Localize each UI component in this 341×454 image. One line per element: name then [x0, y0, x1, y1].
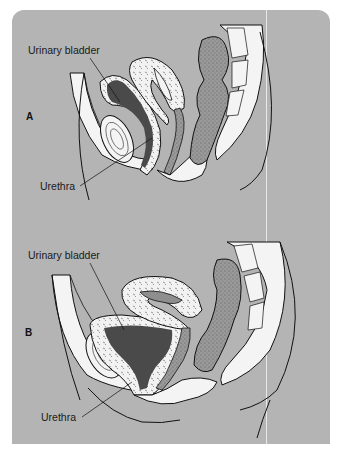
anatomy-diagrams: Urinary bladder Urethra A	[12, 10, 330, 444]
label-urethra-a: Urethra	[40, 180, 75, 192]
label-urinary-bladder-b: Urinary bladder	[28, 249, 100, 261]
panel-letter-a: A	[26, 111, 33, 122]
panel-letter-b: B	[25, 327, 32, 338]
diagram-a: Urinary bladder Urethra A	[26, 25, 272, 200]
label-urinary-bladder-a: Urinary bladder	[28, 44, 100, 56]
label-urethra-b: Urethra	[41, 411, 76, 423]
figure-panel: Urinary bladder Urethra A	[12, 10, 330, 444]
diagram-b: Urinary bladder Urethra B	[25, 242, 295, 438]
